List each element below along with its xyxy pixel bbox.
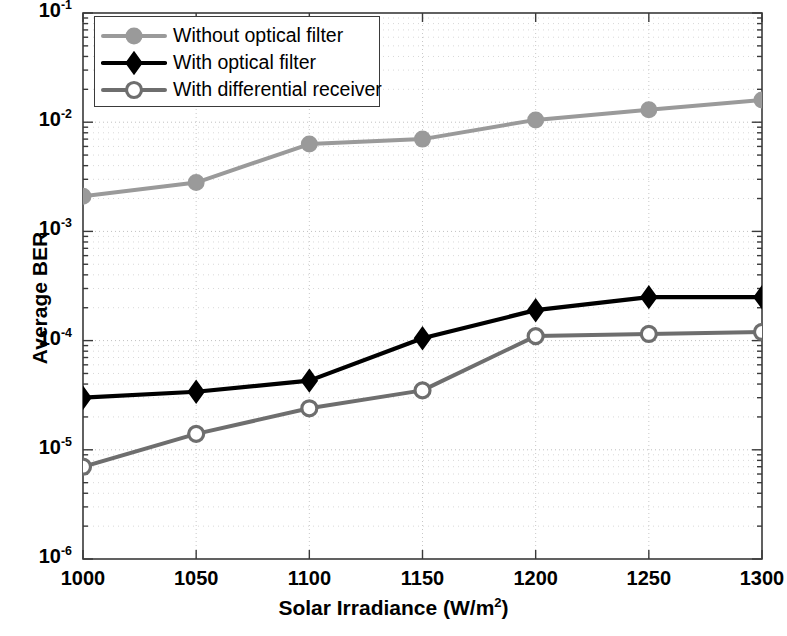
y-tick-label: 10-2 (39, 108, 72, 131)
chart-figure: Average BER Solar Irradiance (W/m2) 10-1… (0, 0, 787, 636)
data-point-marker (641, 326, 656, 341)
data-point-marker (127, 82, 142, 97)
y-tick-mantissa: 10 (39, 108, 61, 130)
data-point-marker (415, 383, 430, 398)
data-point-marker (528, 112, 543, 127)
legend-item-1[interactable]: With optical filter (101, 49, 371, 76)
data-point-marker (415, 132, 430, 147)
y-tick-label: 10-6 (39, 545, 72, 568)
data-point-marker (755, 287, 769, 307)
x-tick-label: 1100 (288, 567, 331, 590)
y-tick-label: 10-3 (39, 217, 72, 240)
data-point-marker (302, 371, 316, 391)
data-point-marker (76, 189, 91, 204)
x-axis-title: Solar Irradiance (W/m2) (0, 596, 787, 620)
y-tick-mantissa: 10 (39, 327, 61, 349)
x-tick-label: 1200 (513, 567, 558, 590)
legend-item-0[interactable]: Without optical filter (101, 22, 371, 49)
data-point-marker (415, 328, 429, 348)
legend-item-2[interactable]: With differential receiver (101, 76, 371, 103)
data-point-marker (755, 92, 770, 107)
x-tick-label: 1300 (740, 567, 785, 590)
data-point-marker (528, 300, 542, 320)
x-tick-label: 1050 (174, 567, 219, 590)
data-point-marker (528, 329, 543, 344)
legend-swatch-icon (101, 51, 167, 75)
x-axis-title-tail: ) (502, 596, 509, 619)
legend-item-label: With optical filter (173, 53, 316, 73)
data-point-marker (641, 102, 656, 117)
data-point-marker (76, 388, 90, 408)
data-point-marker (127, 53, 141, 73)
y-tick-exponent: -6 (61, 544, 72, 558)
y-tick-mantissa: 10 (39, 436, 61, 458)
data-point-marker (189, 175, 204, 190)
x-tick-label: 1150 (401, 567, 444, 590)
x-axis-title-base: Solar Irradiance (W/m (278, 596, 494, 619)
data-point-marker (189, 382, 203, 402)
y-tick-exponent: -4 (61, 326, 72, 340)
data-point-marker (189, 426, 204, 441)
data-point-marker (755, 324, 770, 339)
data-point-marker (302, 137, 317, 152)
y-tick-mantissa: 10 (39, 545, 61, 567)
y-tick-exponent: -5 (61, 435, 72, 449)
y-tick-exponent: -2 (61, 108, 72, 122)
x-tick-label: 1000 (61, 567, 106, 590)
y-tick-exponent: -1 (61, 0, 72, 12)
legend-item-label: Without optical filter (173, 26, 343, 46)
chart-legend: Without optical filterWith optical filte… (94, 16, 380, 107)
y-tick-label: 10-5 (39, 436, 72, 459)
legend-swatch-icon (101, 78, 167, 102)
y-tick-mantissa: 10 (39, 0, 61, 21)
y-tick-mantissa: 10 (39, 217, 61, 239)
y-tick-label: 10-1 (39, 0, 72, 22)
y-tick-label: 10-4 (39, 327, 72, 350)
x-axis-title-superscript: 2 (494, 595, 501, 610)
legend-item-label: With differential receiver (173, 80, 382, 100)
data-point-marker (302, 401, 317, 416)
x-tick-label: 1250 (627, 567, 672, 590)
y-tick-exponent: -3 (61, 217, 72, 231)
data-point-marker (127, 28, 142, 43)
data-point-marker (76, 459, 91, 474)
legend-swatch-icon (101, 24, 167, 48)
data-point-marker (642, 287, 656, 307)
